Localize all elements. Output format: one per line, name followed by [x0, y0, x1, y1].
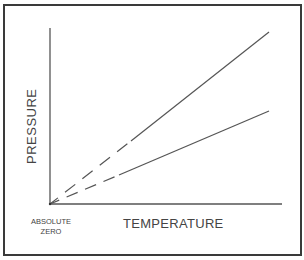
- x-axis-label: TEMPERATURE: [123, 216, 224, 231]
- origin-point: [49, 203, 51, 205]
- shallower-line-dashed: [50, 175, 119, 204]
- shallower-line-solid: [119, 111, 269, 175]
- y-axis-label: PRESSURE: [25, 92, 39, 164]
- steeper-line-solid: [131, 32, 269, 141]
- origin-label-line1: ABSOLUTE: [26, 217, 76, 227]
- absolute-zero-label: ABSOLUTE ZERO: [26, 217, 76, 237]
- steeper-line-dashed: [50, 141, 131, 204]
- origin-label-line2: ZERO: [26, 227, 76, 237]
